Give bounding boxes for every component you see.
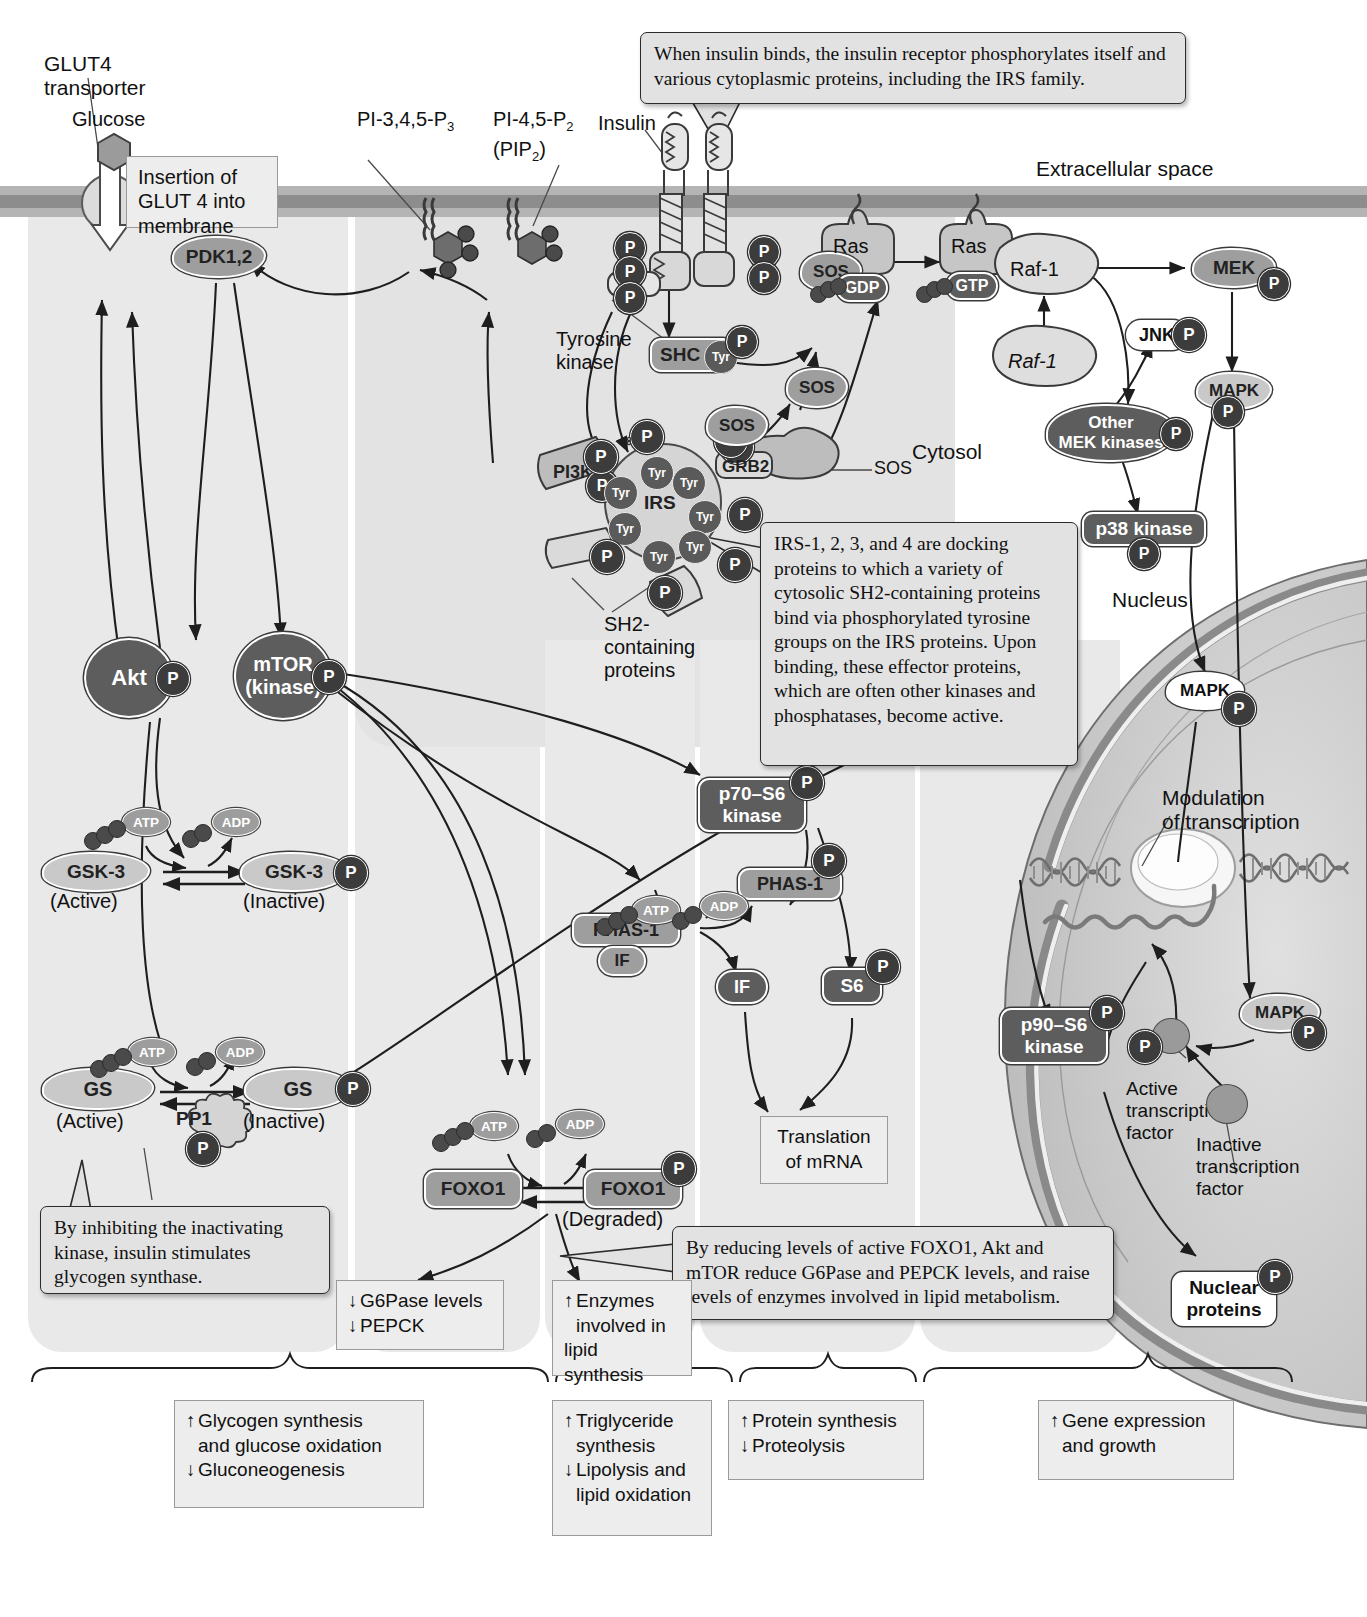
summary-box-protein: ↑Protein synthesis ↓Proteolysis [728,1400,924,1480]
phosphate-p90-s6-kinase: P [1090,996,1124,1030]
callout-irs: IRS-1, 2, 3, and 4 are docking proteins … [760,522,1078,766]
protein-pdk12[interactable]: PDK1,2 [172,236,266,278]
phosphate-akt: P [156,662,190,696]
summary-box-glycogen: ↑Glycogen synthesis and glucose oxidatio… [174,1400,424,1508]
inactive-transcription-factor-icon [1206,1084,1248,1124]
sos-pointer-label: SOS [874,458,912,479]
tyr-irs-1: Tyr [640,456,674,490]
summary-box-triglyceride: ↑Triglyceride synthesis ↓Lipolysis and l… [552,1400,712,1536]
callout-insulin-receptor: When insulin binds, the insulin receptor… [640,32,1186,104]
phosphate-active-tf: P [1128,1030,1162,1064]
phosphate-other-mek-kinases: P [1160,418,1192,450]
gsk3-active-label: (Active) [50,890,118,913]
phosphate-receptor-3: P [614,282,646,314]
phosphate-nuclear-proteins: P [1258,1260,1292,1294]
protein-if-free[interactable]: IF [716,970,768,1004]
phosphate-receptor-5: P [748,262,780,294]
atp-gsk3: ATP [122,808,170,836]
compartment-glycogen [28,217,348,1352]
phosphate-mtor: P [312,660,346,694]
nucleus-label: Nucleus [1112,588,1188,612]
phosphate-irs-right: P [728,498,762,532]
phosphate-s6: P [866,950,900,984]
outcome-box-lipid-synthesis: ↑Enzymes involved in lipid synthesis [552,1280,692,1376]
tyr-irs-2: Tyr [672,466,706,500]
summary-box-gene: ↑Gene expression and growth [1038,1400,1234,1480]
protein-sos-grb2bound[interactable]: SOS [706,406,768,446]
protein-ras-gdp-label[interactable]: Ras [833,235,869,258]
atp-gs: ATP [128,1038,176,1066]
phosphate-foxo1: P [662,1152,696,1186]
sh2-proteins-label: SH2- containing proteins [604,613,695,682]
protein-raf1-active-label[interactable]: Raf-1 [1010,258,1059,281]
gsk3-inactive-label: (Inactive) [243,890,325,913]
protein-gsk3-active[interactable]: GSK-3 [42,852,150,892]
summary-line: synthesis [564,1434,700,1459]
summary-line: and glucose oxidation [186,1434,412,1459]
tyr-irs-7: Tyr [642,540,676,574]
nucleotide-gtp: GTP [946,272,998,300]
outcome-line: ↓PEPCK [348,1314,492,1339]
insulin-label: Insulin [598,112,656,135]
phosphate-jnk: P [1172,318,1206,352]
outcome-line: lipid synthesis [564,1338,680,1387]
phosphate-mapk-nucleus-upper: P [1222,692,1256,726]
atp-foxo1: ATP [470,1112,518,1140]
tyr-irs-3: Tyr [604,476,638,510]
tyrosine-kinase-label: Tyrosine kinase [556,328,632,374]
callout-glut4-insertion: Insertion of GLUT 4 into membrane [126,156,278,228]
pip2-alt-label: (PIP2) [493,138,546,165]
tyr-irs-4: Tyr [688,500,722,534]
summary-line: lipid oxidation [564,1483,700,1508]
phosphate-gs: P [336,1072,370,1106]
protein-grb2-label[interactable]: GRB2 [722,457,769,477]
phosphate-irs-bottom: P [648,576,682,610]
outcome-line: involved in [564,1314,680,1339]
pip3-label: PI-3,4,5-P3 [357,108,454,135]
phosphate-p70-s6-kinase: P [790,766,824,800]
modulation-of-transcription-label: Modulation of transcription [1162,786,1300,834]
gs-inactive-label: (Inactive) [243,1110,325,1133]
glut4-transporter-label: GLUT4 transporter [44,52,146,100]
phosphate-irs-top: P [630,420,664,454]
phosphate-shc: P [726,326,758,358]
outcome-line: ↓G6Pase levels [348,1289,492,1314]
protein-pp1-label[interactable]: PP1 [176,1108,212,1130]
pathway-diagram: GLUT4 transporter Glucose PI-3,4,5-P3 PI… [0,0,1367,1617]
phosphate-p38-kinase: P [1128,538,1160,570]
protein-gsk3-phospho[interactable]: GSK-3 [240,852,348,892]
phosphate-gsk3: P [334,856,368,890]
summary-line: ↑Protein synthesis [740,1409,912,1434]
summary-line: and growth [1050,1434,1222,1459]
adp-foxo1: ADP [556,1110,604,1138]
outcome-line: Translation [772,1125,876,1150]
protein-ras-gtp-label[interactable]: Ras [951,235,987,258]
protein-sos-cytosol[interactable]: SOS [786,368,848,408]
summary-line: ↑Triglyceride [564,1409,700,1434]
summary-line: ↑Glycogen synthesis [186,1409,412,1434]
gs-active-label: (Active) [56,1110,124,1133]
outcome-box-g6pase: ↓G6Pase levels ↓PEPCK [336,1280,504,1350]
foxo1-degraded-label: (Degraded) [562,1208,663,1231]
adp-gsk3: ADP [212,808,260,836]
protein-raf1-inactive-label[interactable]: Raf-1 [1008,350,1057,373]
phosphate-irs-lowright: P [718,548,752,582]
phosphate-mapk-nucleus-lower: P [1292,1016,1326,1050]
phosphate-mapk-cytosol: P [1212,396,1244,428]
phosphate-pp1: P [186,1132,220,1166]
callout-glycogen-synthase: By inhibiting the inactivating kinase, i… [40,1206,330,1294]
outcome-box-translation: Translation of mRNA [760,1116,888,1184]
protein-foxo1[interactable]: FOXO1 [424,1170,522,1208]
phosphate-mek: P [1258,268,1290,300]
summary-line: ↓Proteolysis [740,1434,912,1459]
phosphate-phas1: P [812,844,846,878]
cytosol-label: Cytosol [912,440,982,464]
protein-irs-label[interactable]: IRS [644,492,676,514]
summary-line: ↑Gene expression [1050,1409,1222,1434]
glucose-label: Glucose [72,108,145,131]
summary-line: ↓Gluconeogenesis [186,1458,412,1483]
protein-other-mek-kinases[interactable]: Other MEK kinases [1046,404,1176,462]
pip2-label: PI-4,5-P2 [493,108,574,135]
protein-if-bound: IF [598,946,646,976]
outcome-line: of mRNA [772,1150,876,1175]
